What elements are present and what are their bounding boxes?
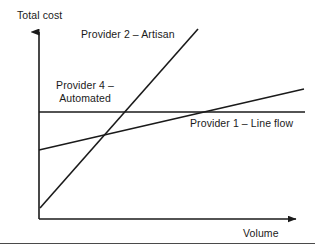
series-label-provider-2-artisan: Provider 2 – Artisan bbox=[81, 28, 175, 41]
series-label-provider-4-automated: Provider 4 –Automated bbox=[44, 79, 126, 104]
series-label-provider-1-line-flow: Provider 1 – Line flow bbox=[190, 117, 293, 130]
chart-figure: Total cost Volume Provider 2 – Artisan P… bbox=[0, 0, 315, 251]
series-label-provider-4-line1: Provider 4 – bbox=[56, 79, 114, 91]
x-axis-label: Volume bbox=[243, 227, 279, 240]
y-axis-label: Total cost bbox=[17, 9, 62, 22]
series-label-provider-4-line2: Automated bbox=[59, 92, 111, 104]
footer-divider bbox=[0, 243, 315, 244]
